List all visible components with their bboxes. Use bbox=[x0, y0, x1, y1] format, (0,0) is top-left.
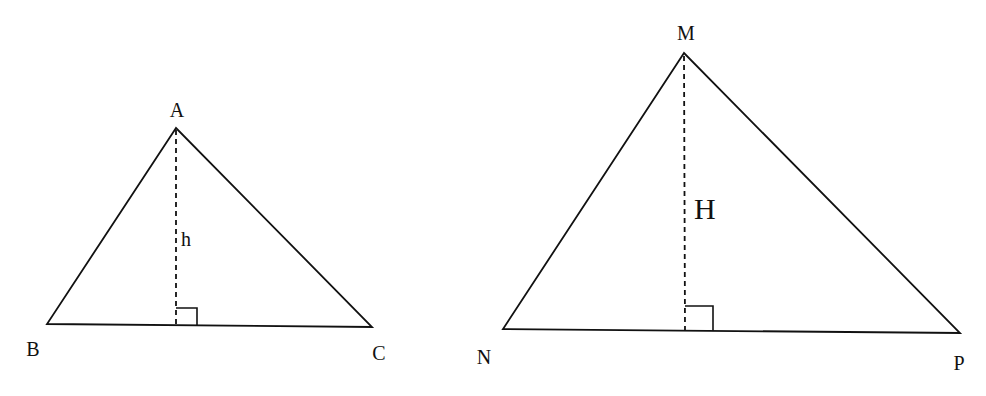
right-angle-marker-mnp bbox=[685, 306, 713, 331]
altitude-label-h: h bbox=[181, 228, 191, 250]
similar-triangles-diagram: A B C h M N P H bbox=[0, 0, 986, 396]
triangle-abc: A B C h bbox=[26, 99, 385, 364]
altitude-label-H: H bbox=[694, 192, 716, 225]
triangle-mnp: M N P H bbox=[477, 22, 965, 374]
right-angle-marker-abc bbox=[176, 308, 197, 325]
vertex-label-m: M bbox=[677, 22, 695, 44]
vertex-label-n: N bbox=[477, 346, 491, 368]
triangle-mnp-outline bbox=[503, 53, 960, 333]
vertex-label-p: P bbox=[953, 352, 964, 374]
vertex-label-a: A bbox=[170, 99, 185, 121]
vertex-label-b: B bbox=[26, 338, 39, 360]
triangle-abc-outline bbox=[47, 128, 372, 327]
altitude-H-line bbox=[684, 56, 685, 331]
vertex-label-c: C bbox=[372, 342, 385, 364]
